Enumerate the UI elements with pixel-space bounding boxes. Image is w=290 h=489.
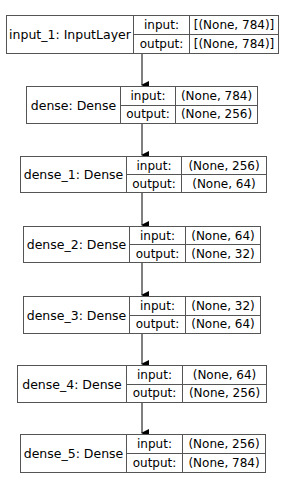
layer-node-dense-3: dense_3: Dense input: output: (None, 32)…: [23, 296, 261, 334]
output-shape: (None, 64): [182, 175, 266, 192]
input-shape: (None, 64): [186, 227, 260, 245]
input-shape: (None, 784): [176, 87, 257, 106]
output-label: output:: [130, 245, 185, 262]
layer-node-input-1: input_1: InputLayer input: output: [(Non…: [6, 15, 279, 54]
layer-node-dense-5: dense_5: Dense input: output: (None, 256…: [20, 434, 266, 473]
output-label: output:: [127, 454, 182, 472]
input-label: input:: [121, 87, 175, 106]
input-label: input:: [130, 297, 185, 316]
output-shape: (None, 256): [176, 106, 257, 124]
layer-name: dense_4: Dense: [18, 366, 127, 402]
layer-name: dense_1: Dense: [21, 157, 127, 192]
layer-node-dense-2: dense_2: Dense input: output: (None, 64)…: [23, 226, 261, 263]
output-label: output:: [127, 385, 182, 403]
layer-node-dense-1: dense_1: Dense input: output: (None, 256…: [20, 156, 267, 193]
input-shape: (None, 256): [183, 435, 265, 454]
input-label: input:: [134, 16, 189, 35]
layer-node-dense: dense: Dense input: output: (None, 784) …: [26, 86, 258, 124]
output-label: output:: [130, 316, 185, 334]
layer-node-dense-4: dense_4: Dense input: output: (None, 64)…: [17, 365, 267, 403]
layer-name: dense_2: Dense: [24, 227, 130, 262]
input-label: input:: [127, 366, 182, 385]
output-shape: (None, 256): [183, 385, 266, 403]
input-shape: (None, 32): [186, 297, 260, 316]
input-shape: (None, 256): [182, 157, 266, 175]
output-shape: [(None, 784)]: [190, 35, 278, 53]
input-shape: (None, 64): [183, 366, 266, 385]
output-shape: (None, 784): [183, 454, 265, 472]
output-shape: (None, 64): [186, 316, 260, 334]
input-shape: [(None, 784)]: [190, 16, 278, 35]
output-label: output:: [121, 106, 175, 124]
layer-name: dense_3: Dense: [24, 297, 130, 333]
input-label: input:: [127, 157, 181, 175]
input-label: input:: [130, 227, 185, 245]
output-label: output:: [134, 35, 189, 53]
layer-name: dense: Dense: [27, 87, 121, 123]
output-label: output:: [127, 175, 181, 192]
layer-name: dense_5: Dense: [21, 435, 127, 472]
output-shape: (None, 32): [186, 245, 260, 262]
layer-name: input_1: InputLayer: [7, 16, 134, 53]
input-label: input:: [127, 435, 182, 454]
